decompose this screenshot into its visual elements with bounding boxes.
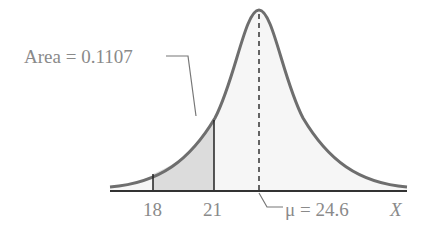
shaded-area	[153, 120, 214, 191]
mean-label: μ = 24.6	[285, 200, 349, 219]
tick-label-18: 18	[143, 200, 162, 219]
x-axis-label: X	[390, 200, 402, 219]
curve-fill	[110, 10, 407, 191]
area-leader-line	[166, 56, 196, 116]
tick-label-21: 21	[203, 200, 222, 219]
mean-leader-line	[259, 193, 283, 207]
area-annotation: Area = 0.1107	[24, 47, 133, 66]
normal-curve-chart	[0, 0, 428, 230]
